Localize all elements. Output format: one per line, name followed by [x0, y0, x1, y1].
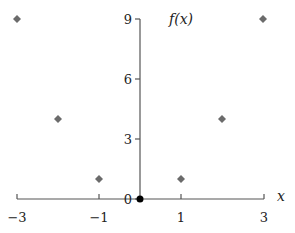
- y-tick-label: 9: [124, 12, 132, 27]
- data-point-diamond: [54, 115, 62, 123]
- x-tick-label: 3: [260, 210, 268, 225]
- data-point-diamond: [218, 115, 226, 123]
- x-tick-label: 1: [177, 210, 185, 225]
- x-axis-title: x: [277, 188, 285, 204]
- y-axis-title: f(x): [168, 11, 193, 27]
- origin-point: [137, 196, 144, 203]
- x-tick-label: −3: [7, 210, 26, 225]
- data-point-diamond: [13, 15, 21, 23]
- y-tick-label: 0: [124, 192, 132, 207]
- x-tick-label: −1: [89, 210, 108, 225]
- data-point-diamond: [95, 175, 103, 183]
- y-tick-label: 6: [124, 72, 132, 87]
- y-axis-ticks: [135, 19, 140, 199]
- y-tick-label: 3: [124, 132, 132, 147]
- chart-canvas: −3 −1 1 3 9 6 3 0 f(x) x: [0, 0, 295, 233]
- data-point-diamond: [177, 175, 185, 183]
- data-point-diamond: [259, 15, 267, 23]
